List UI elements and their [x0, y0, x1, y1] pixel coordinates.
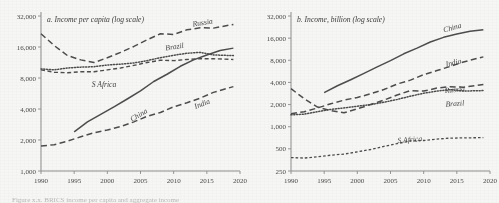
y-tick-label: 250 [276, 168, 287, 176]
y-tick-label: 8,000 [20, 75, 36, 83]
chart-b-y-tick-labels: 2505001,0002,0004,0008,00016,00032,000 [267, 13, 287, 176]
chart-a-svg: 1,0002,0004,0008,00016,00032,000 1990199… [0, 0, 249, 196]
y-tick-label: 16,000 [17, 44, 37, 52]
x-tick-label: 1995 [67, 177, 82, 185]
figure-brics-income: 1,0002,0004,0008,00016,00032,000 1990199… [0, 0, 499, 203]
y-tick-label: 4,000 [20, 106, 36, 114]
series-label-russia: Russia [443, 84, 465, 95]
x-tick-label: 2010 [167, 177, 182, 185]
chart-a-y-tick-labels: 1,0002,0004,0008,00016,00032,000 [17, 13, 37, 176]
y-tick-label: 500 [276, 145, 287, 153]
y-tick-label: 1,000 [270, 123, 286, 131]
x-tick-label: 2015 [200, 177, 215, 185]
series-line-russia [41, 24, 233, 62]
chart-b-tickmarks [288, 16, 490, 174]
chart-b-title: b. Income, billion (log scale) [297, 15, 385, 24]
series-label-brazil: Brazil [445, 98, 464, 108]
chart-a-title: a. Income per capita (log scale) [47, 15, 144, 24]
x-tick-label: 2015 [450, 177, 465, 185]
x-tick-label: 2020 [483, 177, 498, 185]
series-label-china: China [128, 106, 149, 123]
chart-a-tickmarks [38, 16, 240, 174]
chart-a-x-tick-labels: 1990199520002005201020152020 [34, 177, 248, 185]
x-tick-label: 2010 [417, 177, 432, 185]
series-label-india: India [192, 96, 211, 111]
x-tick-label: 2000 [350, 177, 365, 185]
series-line-s-africa [291, 138, 483, 158]
series-label-india: India [444, 56, 463, 68]
y-tick-label: 2,000 [20, 137, 36, 145]
x-tick-label: 1990 [34, 177, 49, 185]
chart-a-axes [38, 12, 240, 174]
y-tick-label: 1,000 [20, 168, 36, 176]
chart-b-svg: 2505001,0002,0004,0008,00016,00032,000 1… [250, 0, 499, 196]
y-tick-label: 8,000 [270, 57, 286, 65]
x-tick-label: 2005 [134, 177, 149, 185]
y-tick-label: 32,000 [267, 13, 287, 21]
chart-panel-a: 1,0002,0004,0008,00016,00032,000 1990199… [0, 0, 249, 203]
series-label-russia: Russia [191, 16, 214, 28]
x-tick-label: 1995 [317, 177, 332, 185]
series-label-china: China [442, 21, 463, 35]
chart-a-series-lines [41, 24, 233, 146]
series-label-s-africa: S Africa [397, 134, 422, 145]
series-label-brazil: Brazil [165, 41, 185, 53]
chart-b-x-tick-labels: 1990199520002005201020152020 [284, 177, 498, 185]
chart-panel-b: 2505001,0002,0004,0008,00016,00032,000 1… [250, 0, 499, 203]
x-tick-label: 2000 [100, 177, 115, 185]
series-line-s-africa [41, 59, 233, 73]
y-tick-label: 4,000 [270, 79, 286, 87]
x-tick-label: 2020 [233, 177, 248, 185]
series-line-brazil [41, 52, 233, 70]
y-tick-label: 32,000 [17, 13, 37, 21]
series-label-s-africa: S Africa [92, 80, 117, 89]
chart-b-series-labels: ChinaIndiaRussiaBrazilS Africa [397, 21, 465, 145]
figure-caption: Figure x.x. BRICS income per capita and … [12, 196, 482, 203]
x-tick-label: 1990 [284, 177, 299, 185]
x-tick-label: 2005 [384, 177, 399, 185]
y-tick-label: 2,000 [270, 101, 286, 109]
y-tick-label: 16,000 [267, 35, 287, 43]
